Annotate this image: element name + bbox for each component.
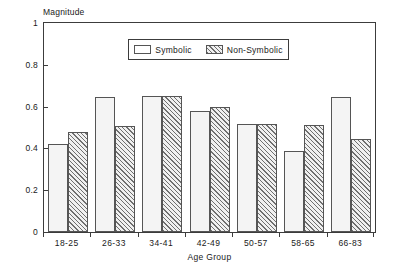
x-axis-tick-mark: [279, 233, 280, 237]
bar-non-symbolic-66-83[interactable]: [351, 139, 371, 232]
y-axis-tick-label: 0.6: [26, 102, 38, 112]
x-axis-tick-mark: [373, 233, 374, 237]
x-axis-tick-mark: [138, 233, 139, 237]
bar-symbolic-66-83[interactable]: [331, 97, 351, 232]
y-axis-tick-mark: [43, 65, 48, 66]
bar-symbolic-42-49[interactable]: [190, 111, 210, 232]
bar-chart-figure: Magnitude 00.20.40.60.81 18-2526-3334-41…: [0, 0, 399, 277]
bar-non-symbolic-42-49[interactable]: [210, 107, 230, 232]
chart-legend: Symbolic Non-Symbolic: [128, 39, 289, 60]
y-axis-tick-label: 1: [33, 18, 38, 28]
y-axis-tick-label-group: 00.20.40.60.81: [0, 22, 38, 233]
legend-entry-symbolic[interactable]: Symbolic: [134, 45, 191, 55]
legend-label-non-symbolic: Non-Symbolic: [227, 45, 283, 55]
x-axis-tick-label: 42-49: [197, 238, 221, 248]
bar-non-symbolic-18-25[interactable]: [68, 132, 88, 232]
empty-box-swatch-icon: [134, 45, 151, 54]
bar-non-symbolic-58-65[interactable]: [304, 125, 324, 232]
hatched-box-swatch-icon: [206, 45, 223, 54]
x-axis-tick-label: 18-25: [55, 238, 79, 248]
legend-entry-non-symbolic[interactable]: Non-Symbolic: [206, 45, 283, 55]
x-axis-tick-label: 34-41: [149, 238, 173, 248]
bar-non-symbolic-34-41[interactable]: [162, 96, 182, 232]
y-axis-tick-mark: [43, 107, 48, 108]
x-axis-tick-label: 66-83: [338, 238, 362, 248]
y-axis-tick-label: 0.8: [26, 60, 38, 70]
y-axis-title: Magnitude: [43, 7, 85, 17]
x-axis-tick-mark: [90, 233, 91, 237]
x-axis-title: Age Group: [43, 252, 376, 262]
y-axis-tick-mark: [43, 148, 48, 149]
bar-non-symbolic-50-57[interactable]: [257, 124, 277, 232]
bar-symbolic-58-65[interactable]: [284, 151, 304, 233]
bar-symbolic-34-41[interactable]: [142, 96, 162, 232]
x-axis-tick-label-group: 18-2526-3334-4142-4950-5758-6566-83: [43, 238, 376, 252]
x-axis-tick-mark: [232, 233, 233, 237]
bar-symbolic-18-25[interactable]: [48, 144, 68, 232]
y-axis-tick-label: 0.2: [26, 185, 38, 195]
bar-symbolic-50-57[interactable]: [237, 124, 257, 232]
y-axis-tick-mark: [43, 190, 48, 191]
y-axis-tick-label: 0: [33, 227, 38, 237]
bar-non-symbolic-26-33[interactable]: [115, 126, 135, 232]
x-axis-tick-mark: [185, 233, 186, 237]
x-axis-tick-label: 50-57: [244, 238, 268, 248]
x-axis-tick-label: 58-65: [291, 238, 315, 248]
x-axis-tick-mark: [327, 233, 328, 237]
x-axis-tick-mark: [43, 233, 44, 237]
x-axis-tick-label: 26-33: [102, 238, 126, 248]
bar-symbolic-26-33[interactable]: [95, 97, 115, 232]
legend-label-symbolic: Symbolic: [155, 45, 191, 55]
y-axis-tick-label: 0.4: [26, 143, 38, 153]
